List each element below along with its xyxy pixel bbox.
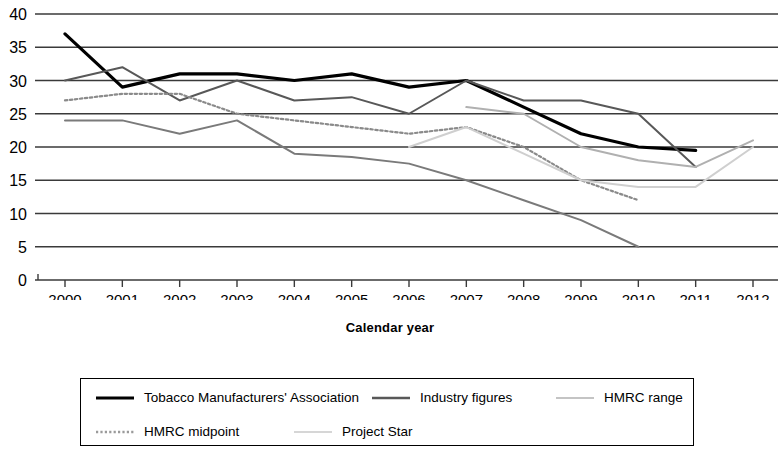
legend-row-2: HMRC midpoint Project Star [81, 415, 693, 449]
legend-item-3: HMRC midpoint [95, 425, 239, 439]
legend-swatch-line-icon [555, 391, 595, 405]
y-axis-tick-label: 25 [9, 106, 27, 123]
y-axis-tick-label: 40 [9, 6, 27, 23]
series-line [65, 34, 696, 150]
legend-swatch-line-icon [293, 425, 333, 439]
y-axis-tick-label: 15 [9, 172, 27, 189]
chart-svg: 0510152025303540200020012002200320042005… [0, 0, 780, 300]
x-axis-tick-label: 2006 [392, 291, 425, 300]
chart-legend: Tobacco Manufacturers' Association Indus… [80, 378, 694, 446]
legend-label: Tobacco Manufacturers' Association [144, 391, 359, 405]
legend-label: Project Star [342, 425, 413, 439]
y-axis-tick-label: 30 [9, 73, 27, 90]
legend-swatch-line-icon [371, 391, 411, 405]
series-line [65, 120, 638, 246]
x-axis-tick-label: 2005 [335, 291, 368, 300]
legend-label: Industry figures [420, 391, 512, 405]
y-axis-tick-label: 10 [9, 206, 27, 223]
x-axis-title: Calendar year [0, 320, 780, 335]
x-axis-tick-label: 2002 [163, 291, 196, 300]
legend-item-0: Tobacco Manufacturers' Association [95, 391, 359, 405]
x-axis-tick-label: 2007 [450, 291, 483, 300]
legend-item-4: Project Star [293, 425, 413, 439]
x-axis-tick-label: 2003 [220, 291, 253, 300]
y-axis-tick-label: 20 [9, 139, 27, 156]
chart-page: 0510152025303540200020012002200320042005… [0, 0, 780, 451]
legend-swatch-line-icon [95, 425, 135, 439]
x-axis-tick-label: 2008 [507, 291, 540, 300]
legend-item-2: HMRC range [555, 391, 683, 405]
y-axis-tick-label: 0 [18, 272, 27, 289]
x-axis-tick-label: 2009 [564, 291, 597, 300]
legend-row-1: Tobacco Manufacturers' Association Indus… [81, 381, 693, 415]
line-chart: 0510152025303540200020012002200320042005… [0, 0, 780, 300]
x-axis-tick-label: 2001 [106, 291, 139, 300]
series-line [466, 107, 753, 167]
x-axis-tick-label: 2012 [736, 291, 769, 300]
y-axis-tick-label: 35 [9, 39, 27, 56]
x-axis-tick-label: 2010 [622, 291, 655, 300]
legend-label: HMRC range [604, 391, 683, 405]
legend-item-1: Industry figures [371, 391, 512, 405]
legend-label: HMRC midpoint [144, 425, 239, 439]
x-axis-tick-label: 2011 [680, 291, 712, 300]
legend-swatch-line-icon [95, 391, 135, 405]
x-axis-tick-label: 2004 [278, 291, 311, 300]
x-axis-tick-label: 2000 [48, 291, 81, 300]
y-axis-tick-label: 5 [18, 239, 27, 256]
